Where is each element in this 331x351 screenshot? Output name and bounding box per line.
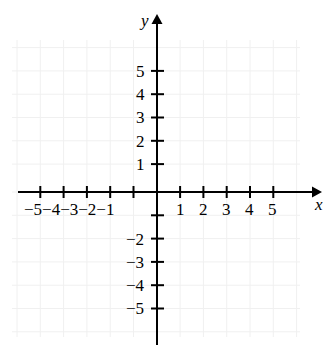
coordinate-plane-svg [0,0,331,351]
x-tick-label-2: 2 [199,201,208,218]
y-tick-label-minus-5: −5 [126,300,144,317]
x-axis-label: x [315,196,323,213]
x-tick-label-3: 3 [222,201,231,218]
y-tick-label-3: 3 [136,109,145,126]
y-tick-label-minus-4: −4 [126,277,144,294]
x-tick-label-5: 5 [268,201,277,218]
x-tick-label-4: 4 [245,201,254,218]
y-tick-label-minus-2: −2 [126,231,144,248]
y-axis [152,14,163,345]
y-axis-arrow-icon [152,14,163,24]
x-tick-label-negatives: −5−4−3−2−1 [24,201,114,218]
y-axis-label: y [141,12,149,29]
y-tick-label-2: 2 [136,133,145,150]
y-tick-label-5: 5 [136,63,145,80]
y-tick-label-1: 1 [136,156,145,173]
y-tick-label-4: 4 [136,86,145,103]
x-tick-label-1: 1 [176,201,185,218]
y-tick-label-minus-3: −3 [126,254,144,271]
